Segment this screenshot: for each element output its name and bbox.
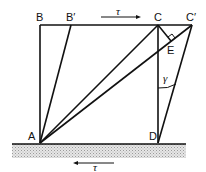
- label-E: E: [167, 44, 174, 56]
- perpendicular-CE: [158, 25, 171, 41]
- label-B-prime: B′: [66, 11, 75, 23]
- top-shear-arrow: [101, 15, 141, 25]
- label-A: A: [28, 130, 36, 142]
- shear-diagram: B B′ C C′ E A D τ τ γ: [0, 0, 206, 172]
- label-B: B: [36, 11, 43, 23]
- label-C: C: [154, 11, 162, 23]
- label-tau-top: τ: [116, 5, 121, 17]
- label-gamma: γ: [163, 72, 168, 84]
- diagonal-AC-prime: [40, 25, 192, 143]
- edge-DC-prime: [158, 25, 192, 143]
- diagonal-AC: [40, 25, 158, 143]
- edge-AB-prime: [40, 25, 71, 143]
- ground-hatch: [12, 144, 186, 158]
- label-D: D: [149, 130, 157, 142]
- label-C-prime: C′: [186, 11, 196, 23]
